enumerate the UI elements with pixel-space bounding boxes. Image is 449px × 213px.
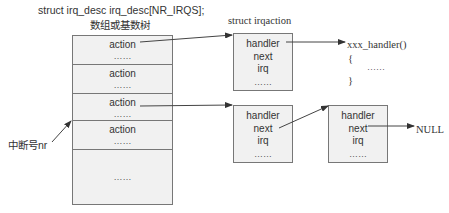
arrow-index-to-array (52, 121, 71, 142)
arrow-action2-to-node (140, 105, 232, 106)
arrow-action0-to-node (140, 35, 232, 42)
arrow-next-to-node (279, 106, 328, 128)
arrows-layer (0, 0, 449, 213)
